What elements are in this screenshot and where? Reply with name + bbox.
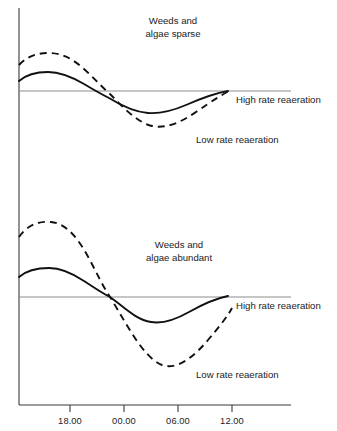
chart-canvas [0, 0, 337, 431]
lower-curve-high-rate [19, 268, 228, 323]
x-tick-label-00: 00.00 [112, 415, 136, 428]
upper-curve-high-rate [19, 72, 228, 113]
chart-figure: Weeds and algae sparse Weeds and algae a… [0, 0, 337, 431]
x-tick-label-12: 12.00 [220, 415, 244, 428]
lower-panel-title: Weeds and algae abundant [124, 238, 234, 264]
lower-panel-title-line1: Weeds and [124, 238, 234, 251]
lower-high-rate-label: High rate reaeration [236, 300, 321, 313]
upper-panel-title: Weeds and algae sparse [125, 14, 221, 40]
x-tick-label-18: 18.00 [58, 415, 82, 428]
upper-low-rate-label: Low rate reaeration [196, 134, 279, 147]
upper-panel-title-line2: algae sparse [125, 27, 221, 40]
upper-curve-low-rate [19, 53, 231, 127]
upper-high-rate-label: High rate reaeration [236, 94, 321, 107]
x-tick-label-06: 06.00 [166, 415, 190, 428]
upper-panel-title-line1: Weeds and [125, 14, 221, 27]
lower-low-rate-label: Low rate reaeration [196, 369, 279, 382]
lower-panel-title-line2: algae abundant [124, 251, 234, 264]
